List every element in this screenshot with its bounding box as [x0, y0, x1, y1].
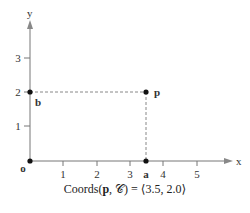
x-tick-label: 2: [94, 168, 100, 180]
origin-point: [27, 158, 32, 163]
x-tick-label: 4: [160, 168, 166, 180]
x-ticks: 1 2 3 4 5: [60, 161, 200, 180]
y-tick-label: 3: [15, 52, 21, 64]
caption-value: ) = ⟨3.5, 2.0⟩: [124, 182, 186, 196]
point-b: [27, 89, 32, 94]
point-p-label: p: [154, 86, 160, 98]
y-axis-label: y: [27, 7, 33, 19]
caption-prefix: Coords(: [64, 182, 103, 196]
x-axis-label: x: [236, 155, 242, 167]
caption-frame: 𝒞: [115, 182, 124, 196]
y-tick-label: 2: [15, 86, 21, 98]
coords-caption: Coords(p, 𝒞) = ⟨3.5, 2.0⟩: [0, 182, 250, 197]
point-b-label: b: [35, 96, 41, 108]
x-axis-arrow-icon: [224, 158, 233, 164]
origin-label: o: [20, 162, 26, 174]
y-tick-label: 1: [15, 120, 21, 132]
x-tick-label: 1: [60, 168, 66, 180]
y-axis-arrow-icon: [27, 20, 33, 29]
x-tick-label: 5: [194, 168, 200, 180]
point-p: [143, 89, 148, 94]
point-a: [143, 158, 148, 163]
point-a-label: a: [143, 168, 149, 180]
x-tick-label: 3: [127, 168, 133, 180]
